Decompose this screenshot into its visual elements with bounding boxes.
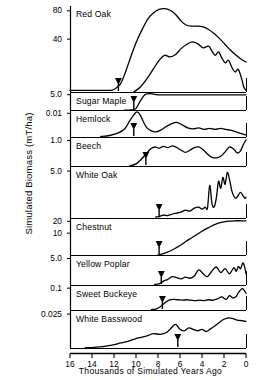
y-axis-tick-label: 80	[22, 5, 62, 15]
y-axis-tick-label: 5.0	[22, 253, 62, 263]
y-axis-tick-label: 1.0	[22, 135, 62, 145]
biomass-panel-chart: Simulated Biomass (mT/ha) Thousands of S…	[0, 0, 259, 380]
y-axis-tick-label: 0.01	[22, 108, 62, 118]
arrival-marker-triangle	[158, 271, 165, 284]
panel-label-beech: Beech	[76, 141, 101, 151]
x-axis-tick-label: 6	[170, 359, 190, 369]
y-axis-tick-label: 40	[22, 34, 62, 44]
panel-label-white-basswood: White Basswood	[76, 314, 142, 324]
y-axis-tick-label: 0.025	[22, 309, 62, 319]
panel-label-chestnut: Chestnut	[76, 222, 112, 232]
x-axis-tick-label: 14	[82, 359, 102, 369]
arrival-marker-triangle	[130, 123, 137, 136]
series-line	[158, 221, 246, 255]
arrival-marker-triangle	[130, 96, 137, 109]
x-axis-tick-label: 12	[104, 359, 124, 369]
y-axis-tick-label: 5.0	[22, 166, 62, 176]
panel-label-hemlock: Hemlock	[76, 114, 110, 124]
arrival-marker-triangle	[174, 334, 181, 347]
x-axis-tick-label: 10	[126, 359, 146, 369]
arrival-marker-triangle	[143, 152, 150, 165]
arrival-marker-triangle	[156, 241, 163, 254]
series-line	[70, 9, 246, 91]
series-line	[101, 112, 246, 137]
x-axis-tick-label: 4	[192, 359, 212, 369]
y-axis-tick-label: 0.1	[22, 283, 62, 293]
x-axis-tick-label: 2	[214, 359, 234, 369]
panel-label-yellow-poplar: Yellow Poplar	[76, 259, 130, 269]
panel-label-sweet-buckeye: Sweet Buckeye	[76, 289, 137, 299]
x-axis-tick-label: 0	[236, 359, 256, 369]
panel-label-white-oak: White Oak	[76, 170, 117, 180]
series-line	[156, 172, 246, 217]
panel-label-red-oak: Red Oak	[76, 9, 111, 19]
x-axis-tick-label: 16	[60, 359, 80, 369]
series-line	[125, 93, 246, 110]
y-axis-tick-label: 10	[22, 228, 62, 238]
panel-label-sugar-maple: Sugar Maple	[76, 96, 126, 106]
series-line	[151, 289, 246, 310]
y-axis-tick-label: 20	[22, 216, 62, 226]
y-axis-tick-label: 5.0	[22, 89, 62, 99]
series-line	[155, 263, 246, 284]
x-axis-tick-label: 8	[148, 359, 168, 369]
